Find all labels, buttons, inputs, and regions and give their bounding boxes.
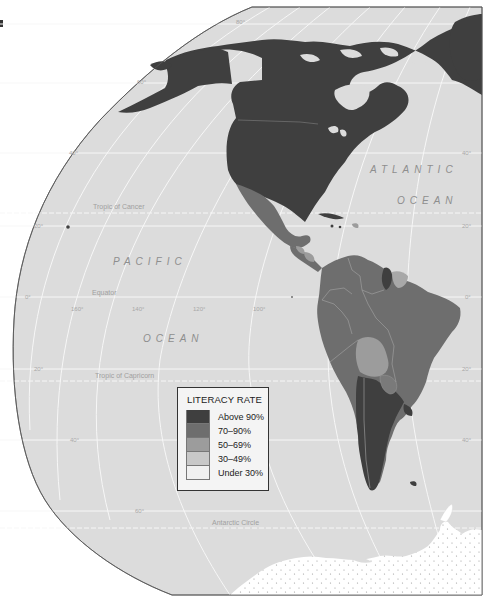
lon-label: 140° [132,306,144,312]
legend-label: Under 30% [218,468,263,478]
lat-label: 80° [236,19,245,25]
lat-label: 40° [69,150,78,156]
label-tropic-capricorn: Tropic of Capricorn [95,372,154,379]
legend-swatch [186,438,210,452]
lat-label: 40° [70,437,79,443]
label-atlantic-ocean: OCEAN [397,195,458,206]
legend-item: 50–69% [186,438,268,452]
label-pacific-ocean: OCEAN [143,333,204,344]
label-tropic-cancer: Tropic of Cancer [93,203,144,210]
lat-label-right: 20° [462,223,471,229]
legend-swatch [186,424,210,438]
lon-label: 120° [193,306,205,312]
label-pacific: PACIFIC [113,256,187,267]
lat-label: 20° [34,366,43,372]
legend-label: 70–90% [218,426,251,436]
legend-label: Above 90% [218,412,264,422]
lat-label-right: 40° [462,150,471,156]
label-equator: Equator [92,289,117,296]
lat-label: 60° [135,508,144,514]
label-atlantic: ATLANTIC [370,164,458,175]
lat-label: 0° [25,294,31,300]
lon-label: 100° [253,306,265,312]
lon-label: 160° [71,306,83,312]
lat-label: 60° [137,79,146,85]
lat-label-right: 0° [465,294,471,300]
lat-label-right: 20° [462,366,471,372]
legend-label: 50–69% [218,440,251,450]
legend-title: LITERACY RATE [187,394,268,405]
legend-item: Under 30% [186,466,268,480]
label-antarctic-circle: Antarctic Circle [212,519,259,526]
legend-swatch [186,452,210,466]
legend-item: 70–90% [186,424,268,438]
legend-item: Above 90% [186,410,268,424]
legend-item: 30–49% [186,452,268,466]
legend-swatch [186,410,210,424]
lat-label-right: 40° [462,437,471,443]
legend: LITERACY RATE Above 90% 70–90% 50–69% 30… [177,387,269,491]
legend-label: 30–49% [218,454,251,464]
map-canvas [0,0,490,600]
lat-label: 20° [34,223,43,229]
legend-swatch [186,466,210,480]
